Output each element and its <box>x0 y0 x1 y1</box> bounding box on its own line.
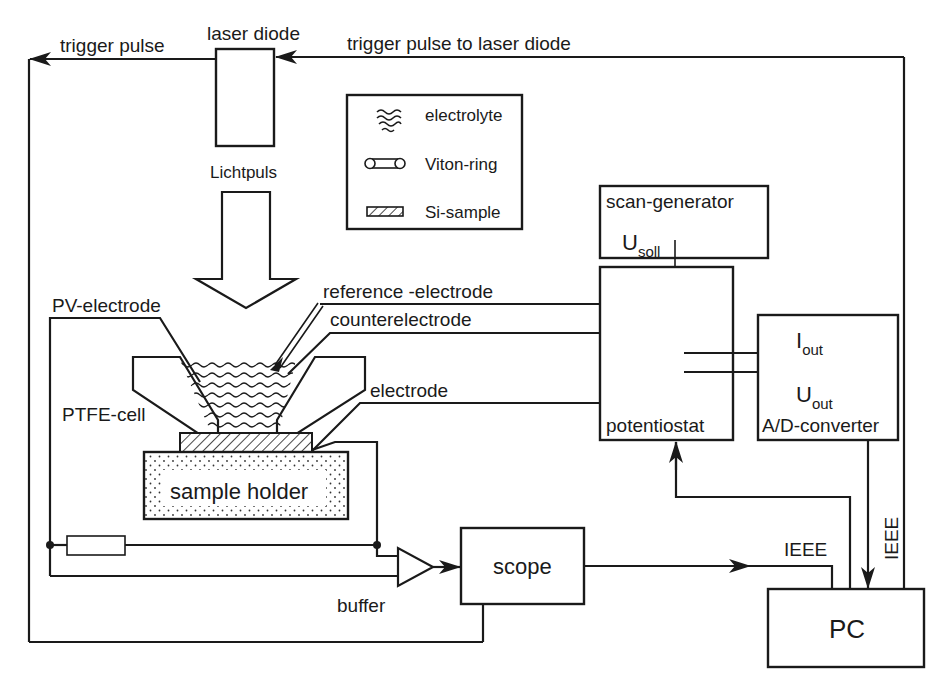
potentiostat-label: potentiostat <box>606 415 705 436</box>
reference-electrode-label: reference -electrode <box>323 281 493 302</box>
electrode-wire <box>312 403 624 451</box>
diagram-canvas: trigger pulse trigger pulse to laser dio… <box>0 0 940 692</box>
ieee-vertical-label: IEEE <box>881 517 902 560</box>
legend-label-viton-ring: Viton-ring <box>425 155 497 174</box>
ieee-horizontal-label: IEEE <box>784 539 827 560</box>
legend-label-electrolyte: electrolyte <box>425 106 502 125</box>
scan-generator-label: scan-generator <box>606 191 734 212</box>
trigger-pulse-label: trigger pulse <box>60 35 165 56</box>
si-sample <box>180 433 312 452</box>
trigger-pulse-to-laser-label: trigger pulse to laser diode <box>347 33 571 54</box>
laser-diode-box <box>216 49 274 146</box>
counterelectrode-wire <box>288 333 624 374</box>
resistor-icon <box>67 536 125 555</box>
counterelectrode-label: counterelectrode <box>330 309 472 330</box>
electrode-label: electrode <box>370 380 448 401</box>
experimental-setup-diagram: trigger pulse trigger pulse to laser dio… <box>0 0 940 692</box>
buffer-amplifier-icon <box>398 548 433 586</box>
laser-diode-label: laser diode <box>207 23 300 44</box>
legend: electrolyte Viton-ring Si-sample <box>347 95 522 229</box>
scope-to-pc-line <box>584 566 832 589</box>
scope-label: scope <box>493 554 552 579</box>
sample-holder-label: sample holder <box>170 479 308 504</box>
pv-electrode-label: PV-electrode <box>52 295 161 316</box>
buffer-label: buffer <box>337 595 386 616</box>
light-pulse-arrow-icon <box>196 192 296 308</box>
legend-label-si-sample: Si-sample <box>425 203 501 222</box>
ptfe-cell <box>133 357 365 441</box>
lichtpuls-label: Lichtpuls <box>210 163 277 182</box>
ad-converter-label: A/D-converter <box>762 415 880 436</box>
si-sample-hatch-icon <box>367 207 403 216</box>
ptfe-cell-label: PTFE-cell <box>62 404 145 425</box>
pc-label: PC <box>829 614 865 644</box>
